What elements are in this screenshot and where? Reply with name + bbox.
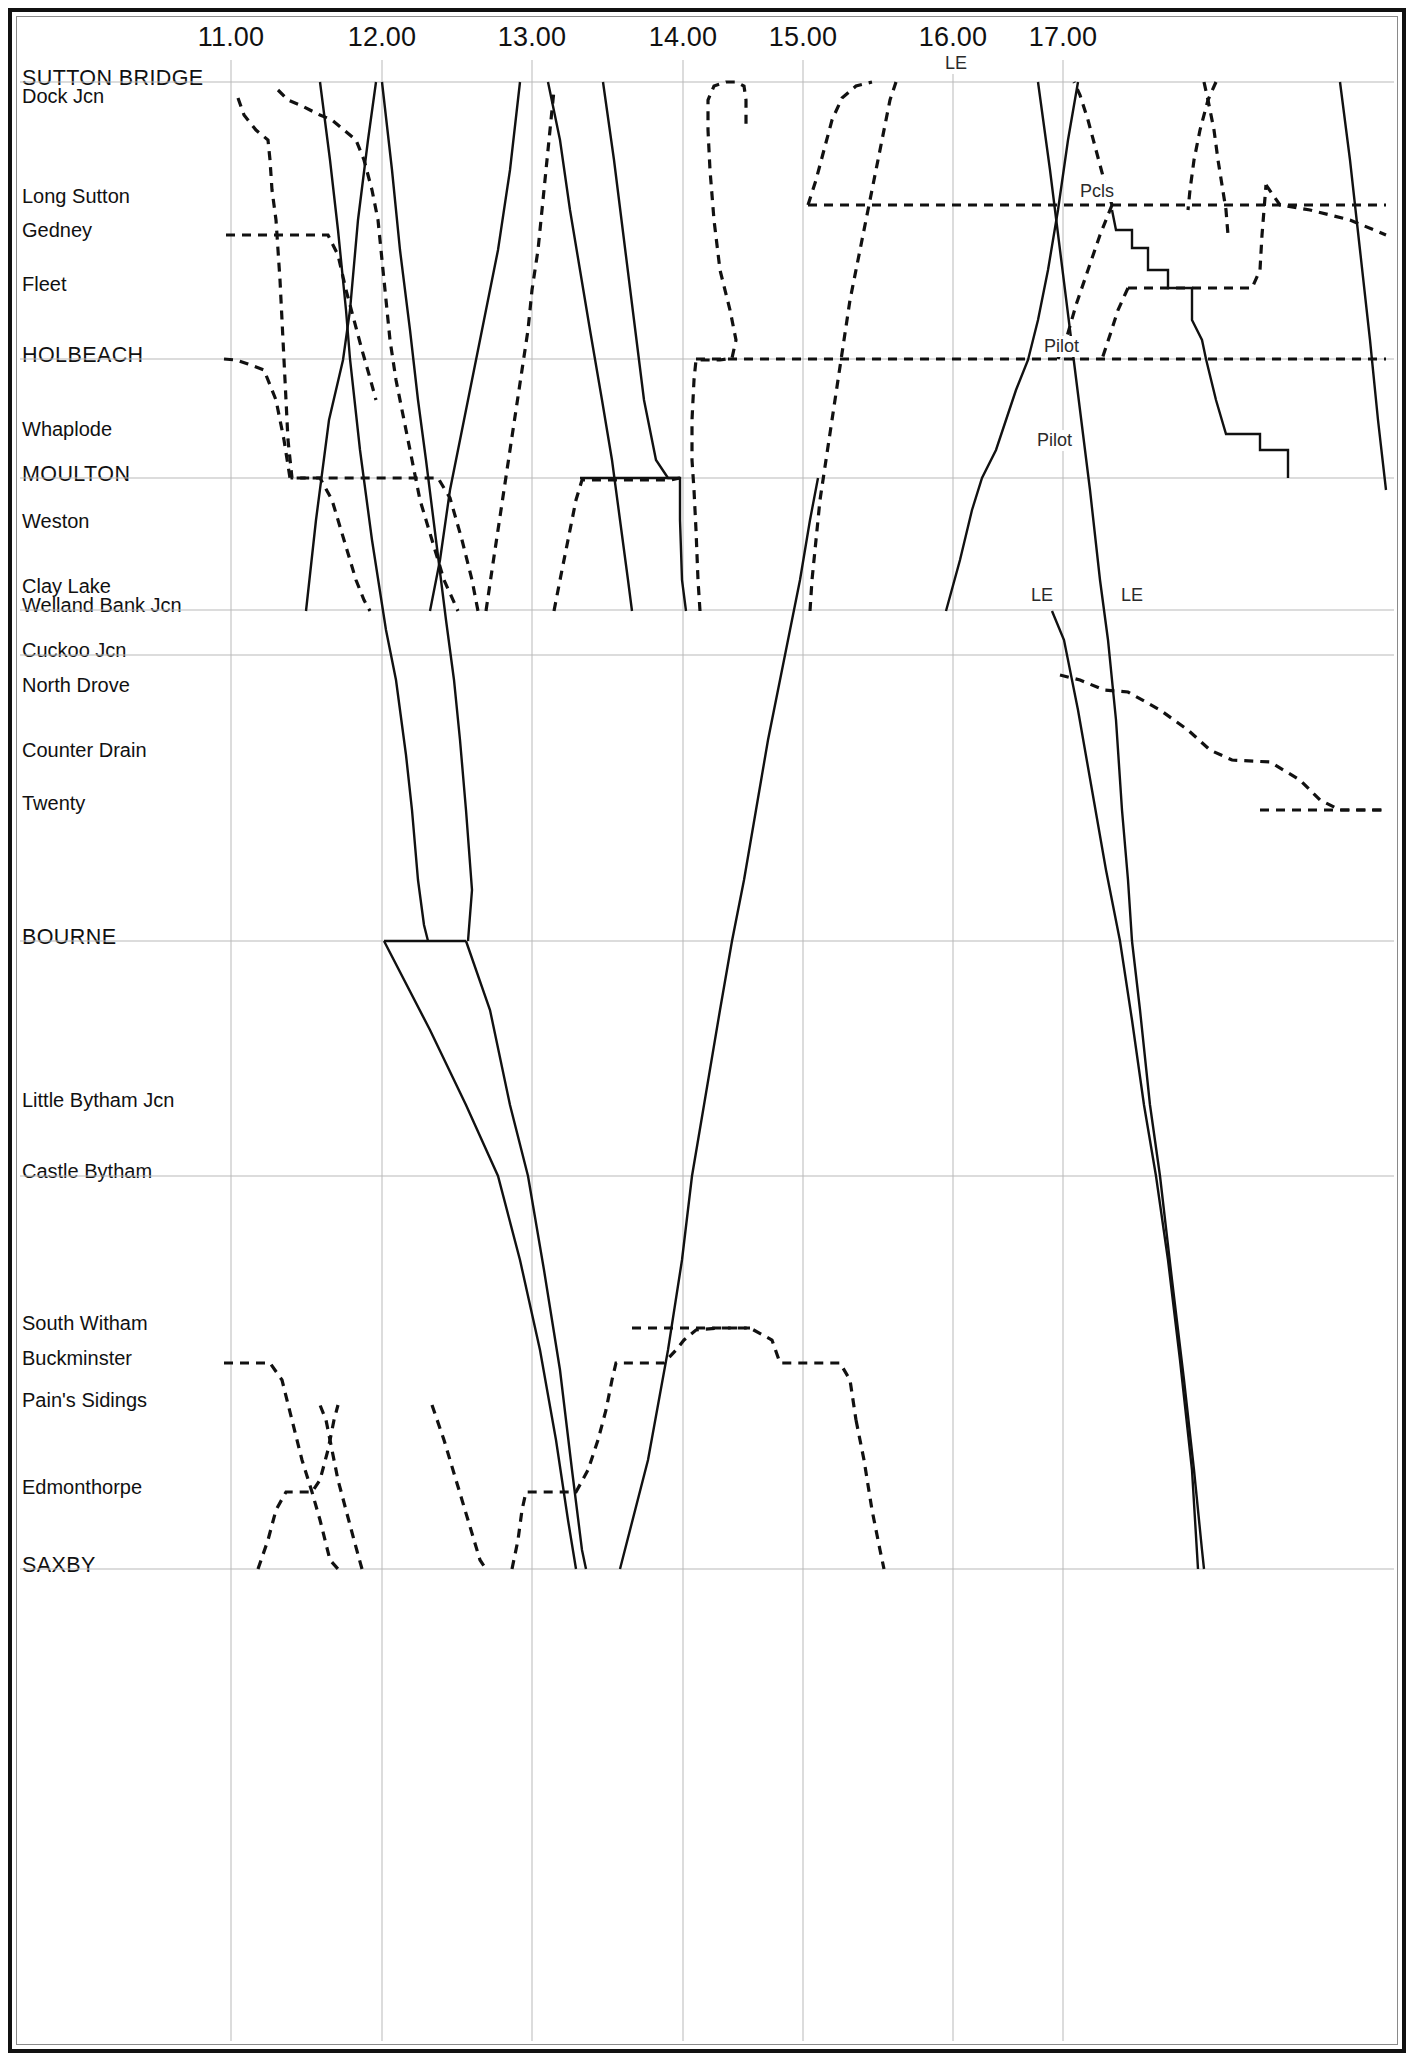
train-path-far-right-solid xyxy=(1340,82,1386,490)
train-path-late-down-solid xyxy=(1038,82,1132,941)
train-path-long-up-solid xyxy=(603,82,686,611)
train-path-up-train-2-solid xyxy=(430,82,520,611)
dashed-train-paths xyxy=(224,82,1386,1569)
train-path-fleet-pilot-down-dashed xyxy=(1102,288,1128,359)
train-path-buckminster-dashed-2 xyxy=(258,1405,338,1569)
train-graph-svg xyxy=(20,20,1394,2041)
train-path-up-freight-dashed xyxy=(486,90,554,611)
solid-train-paths xyxy=(306,82,1386,1569)
train-path-pcls-up-dashed xyxy=(808,82,872,205)
train-path-buckminster-dashed-1 xyxy=(224,1363,338,1569)
train-path-bourne-south-solid-b xyxy=(466,941,586,1569)
train-path-up-train-1-solid xyxy=(306,82,376,611)
train-path-edmonthorpe-cross-dashed xyxy=(320,1405,362,1569)
train-path-le-2-dashed xyxy=(810,82,896,611)
train-path-sw-up-dashed xyxy=(856,1420,884,1569)
train-path-fleet-pilot-dashed xyxy=(1128,185,1266,288)
train-path-late-up-from-saxby-solid xyxy=(1052,611,1198,1569)
train-path-gedney-right-dashed xyxy=(1266,185,1386,235)
train-path-pcls-solid xyxy=(1112,210,1206,359)
annotation-le-4: LE xyxy=(1029,585,1055,606)
annotation-pcls-1: Pcls xyxy=(1078,181,1116,202)
train-path-freight-2-dashed xyxy=(278,90,458,611)
train-path-edmonthorpe-dashed xyxy=(512,1328,856,1569)
train-path-le-freight-dashed xyxy=(692,82,746,611)
annotation-pilot-2: Pilot xyxy=(1042,336,1081,357)
vertical-gridlines xyxy=(231,60,1063,2041)
train-path-bourne-south-solid-a xyxy=(384,941,576,1569)
train-graph-page: 11.0012.0013.0014.0015.0016.0017.00 SUTT… xyxy=(0,0,1414,2061)
annotation-pilot-3: Pilot xyxy=(1035,430,1074,451)
train-path-saxby-to-bourne-solid xyxy=(620,478,818,1569)
train-path-holbeach-down-solid xyxy=(1206,359,1288,478)
annotation-le-0: LE xyxy=(943,53,969,74)
train-path-north-drove-dashed xyxy=(1060,675,1386,810)
station-rule-lines xyxy=(20,82,1394,1569)
train-path-sutton-up-right-dashed xyxy=(1188,82,1216,210)
train-path-pains-siding-up-dashed xyxy=(432,1405,486,1569)
train-path-up-train-3-solid xyxy=(548,82,632,611)
annotation-le-5: LE xyxy=(1119,585,1145,606)
train-path-down-train-1-solid xyxy=(320,82,428,941)
graph-plot-area xyxy=(20,20,1394,2041)
train-path-down-train-2-solid xyxy=(382,82,472,941)
